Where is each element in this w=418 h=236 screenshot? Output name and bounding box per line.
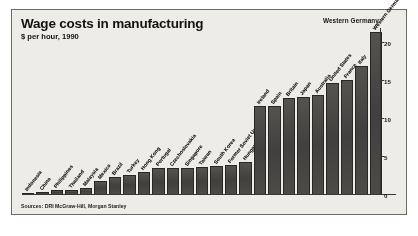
y-axis-tick-label: 0 <box>384 192 387 199</box>
y-axis-tick-label: 5 <box>384 154 387 161</box>
bar <box>355 66 367 195</box>
bar <box>268 106 280 195</box>
bar <box>152 168 164 195</box>
bar-slot: Portugal <box>152 28 164 195</box>
bar-slot: Australia <box>312 28 324 195</box>
bar <box>297 97 309 195</box>
bar-slot: Hungary <box>239 28 251 195</box>
bar-slot: Malaysia <box>80 28 92 195</box>
source-note: Sources: DRI McGraw-Hill, Morgan Stanley <box>21 203 127 209</box>
y-axis-tick-label: 15 <box>384 78 391 85</box>
bar <box>109 177 121 195</box>
bar <box>181 168 193 195</box>
plot-area: IndonesiaChinaPhilippinesThailandMalaysi… <box>22 28 382 195</box>
bar <box>123 175 135 195</box>
bar-label: Spain <box>270 90 283 105</box>
bar <box>312 95 324 195</box>
bar <box>283 98 295 195</box>
bar <box>225 165 237 195</box>
bar <box>94 181 106 195</box>
bar-slot: South Korea <box>210 28 222 195</box>
bar-slot: Mexico <box>94 28 106 195</box>
bar-slot: France <box>341 28 353 195</box>
bar-slot: Czechoslovakia <box>167 28 179 195</box>
chart-figure: Wage costs in manufacturing $ per hour, … <box>11 9 407 215</box>
bar <box>138 172 150 195</box>
bar-slot: Taiwan <box>196 28 208 195</box>
y-axis-tick-label: 10 <box>384 116 391 123</box>
bar-label: Western Germany <box>371 0 403 31</box>
bar-slot: United States <box>326 28 338 195</box>
bar-slot: China <box>36 28 48 195</box>
western-germany-callout: Western Germany <box>323 17 379 24</box>
y-axis-line <box>380 28 381 195</box>
bar-slot: Spain <box>268 28 280 195</box>
y-axis-tick-label: 20 <box>384 40 391 47</box>
bar-slot: Italy <box>355 28 367 195</box>
bar-label: Italy <box>357 53 368 65</box>
bar-slot: Thailand <box>65 28 77 195</box>
bar <box>341 80 353 195</box>
bar-label: Japan <box>299 81 313 97</box>
bar-slot: Philippines <box>51 28 63 195</box>
bar <box>210 166 222 195</box>
bar-slot: Japan <box>297 28 309 195</box>
bar <box>254 106 266 195</box>
bar <box>239 162 251 195</box>
bar-slot: Indonesia <box>22 28 34 195</box>
y-axis: 05101520 <box>380 28 396 195</box>
bar-label: China <box>38 176 52 191</box>
bar <box>196 167 208 195</box>
bar-label: Brazil <box>110 161 123 176</box>
bar-slot: Ireland <box>254 28 266 195</box>
bar-slot: Brazil <box>109 28 121 195</box>
bar-slot: Turkey <box>123 28 135 195</box>
bar-slot: Britain <box>283 28 295 195</box>
bar <box>326 83 338 195</box>
bar-slot: Hong Kong <box>138 28 150 195</box>
bar-slot: Singapore <box>181 28 193 195</box>
bar-series: IndonesiaChinaPhilippinesThailandMalaysi… <box>22 28 382 195</box>
bar <box>167 168 179 195</box>
axis-baseline <box>22 194 396 195</box>
bar-slot: Former Soviet Union <box>225 28 237 195</box>
